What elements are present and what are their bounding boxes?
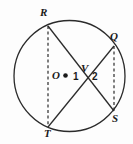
angle-label-2: 2 xyxy=(92,72,98,82)
point-label-v: V xyxy=(81,63,88,74)
point-label-t: T xyxy=(44,128,51,139)
center-point-dot xyxy=(63,73,68,78)
point-label-r: R xyxy=(40,7,47,18)
point-label-q: Q xyxy=(110,31,118,42)
angle-label-1: 1 xyxy=(73,72,79,82)
center-label-o: O xyxy=(52,70,60,81)
chord-TQ xyxy=(48,46,114,127)
geometry-figure: R Q S T V O 1 2 xyxy=(0,0,133,144)
circle-outline xyxy=(14,21,125,132)
point-label-s: S xyxy=(112,113,118,124)
